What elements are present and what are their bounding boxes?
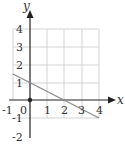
x-tick-label: 3 bbox=[78, 104, 85, 117]
y-tick-label: -2 bbox=[12, 131, 23, 144]
y-tick-label: -1 bbox=[12, 112, 23, 125]
origin-point bbox=[28, 98, 32, 102]
y-tick-label: 2 bbox=[16, 59, 23, 72]
x-tick-label: 2 bbox=[61, 104, 68, 117]
y-tick-label: 1 bbox=[16, 77, 23, 90]
x-axis-label: x bbox=[117, 93, 124, 107]
x-tick-label: 4 bbox=[96, 104, 103, 117]
y-axis-label: y bbox=[22, 0, 30, 13]
x-tick-label: 1 bbox=[44, 104, 51, 117]
coordinate-plane: x y -1 0 1 2 3 4 4 3 2 1 -1 -2 bbox=[0, 0, 125, 156]
x-axis-arrow-icon bbox=[108, 97, 116, 104]
y-tick-label: 3 bbox=[16, 41, 23, 54]
axes bbox=[9, 16, 110, 138]
y-tick-label: 4 bbox=[16, 23, 23, 36]
